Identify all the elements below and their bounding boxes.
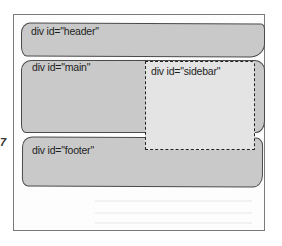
margin-mark: 7 [0, 136, 6, 148]
sidebar-label: div id="sidebar" [151, 65, 220, 77]
main-label: div id="main" [32, 61, 90, 73]
show-through-text-line [95, 200, 252, 202]
footer-label: div id="footer" [32, 144, 94, 156]
show-through-text-line [95, 222, 252, 224]
show-through-text-line [95, 212, 252, 214]
header-label: div id="header" [31, 25, 99, 37]
